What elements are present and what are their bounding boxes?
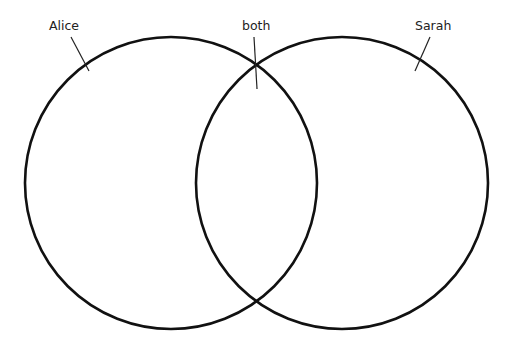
venn-diagram: Alice both Sarah xyxy=(0,0,510,351)
alice-circle xyxy=(25,37,317,329)
alice-leader-line xyxy=(71,37,89,71)
sarah-label: Sarah xyxy=(415,18,451,33)
both-label: both xyxy=(242,18,270,33)
sarah-circle xyxy=(196,37,488,329)
alice-label: Alice xyxy=(49,18,79,33)
